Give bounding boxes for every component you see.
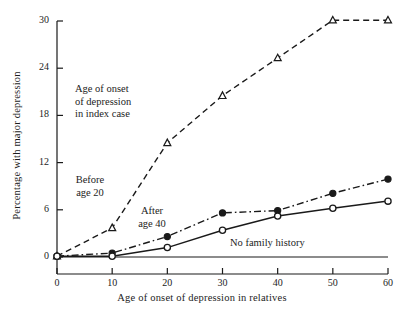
x-tick-label-0: 0 [44,277,70,288]
series-line [57,20,388,256]
x-axis [57,257,388,274]
data-series-group [54,16,392,259]
series-after-age-40 [54,176,391,259]
datapoint-30 [219,92,226,99]
datapoint-40 [275,213,281,219]
datapoint-30 [219,210,225,216]
series-line [57,179,388,256]
datapoint-0 [54,253,60,259]
y-axis-title: Percentage with major depression [11,46,22,246]
y-tick-label-30: 30 [27,14,49,25]
plot-frame [57,21,388,257]
x-axis-title: Age of onset of depression in relatives [0,292,404,303]
y-tick-label-18: 18 [27,108,49,119]
chart-figure: Percentage with major depression Age of … [0,0,404,316]
before-age-20-label: Before age 20 [76,174,105,199]
datapoint-40 [274,54,281,61]
y-tick-label-0: 0 [27,250,49,261]
depression-onset-line-chart [0,0,404,316]
datapoint-60 [385,198,391,204]
datapoint-50 [330,190,336,196]
x-tick-label-20: 20 [154,277,180,288]
x-tick-label-30: 30 [210,277,236,288]
y-axis [57,21,63,257]
y-tick-label-12: 12 [27,156,49,167]
datapoint-50 [330,205,336,211]
series-before-age-20 [54,16,392,259]
datapoint-20 [164,244,170,250]
datapoint-30 [219,227,225,233]
x-tick-label-60: 60 [375,277,401,288]
datapoint-60 [385,176,391,182]
index-case-note: Age of onset of depression in index case [75,83,131,121]
after-age-40-label: After age 40 [138,205,166,230]
datapoint-20 [164,233,170,239]
y-tick-label-24: 24 [27,61,49,72]
x-tick-label-40: 40 [265,277,291,288]
datapoint-10 [109,253,115,259]
series-no-family-history [54,198,391,259]
x-tick-label-50: 50 [320,277,346,288]
no-family-history-label: No family history [230,237,305,250]
datapoint-20 [164,139,171,146]
x-tick-label-10: 10 [99,277,125,288]
y-tick-label-6: 6 [27,203,49,214]
